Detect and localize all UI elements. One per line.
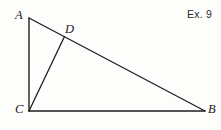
segment-ab	[29, 18, 205, 111]
vertex-label-a: A	[15, 9, 23, 22]
triangle-abc	[29, 18, 205, 111]
geometry-figure: A D C B Ex. 9	[0, 0, 221, 130]
vertex-label-d: D	[65, 23, 74, 36]
vertex-label-b: B	[208, 103, 216, 116]
segment-cd	[29, 37, 65, 112]
vertex-label-c: C	[15, 103, 23, 116]
exercise-caption: Ex. 9	[187, 8, 212, 20]
